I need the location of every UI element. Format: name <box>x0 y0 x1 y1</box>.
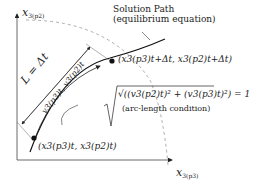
angle-arc <box>61 105 78 125</box>
x-axis-label: x3(p3) <box>176 166 198 179</box>
length-tick-b <box>86 44 112 62</box>
y-axis-label: x3(p2) <box>22 6 44 19</box>
length-tick-a <box>17 122 33 140</box>
length-arrow-rev <box>22 47 90 124</box>
end-point-label: (x3(p3)t+Δt, x3(p2)t+Δt) <box>118 54 232 64</box>
start-point-label: (x3(p3)t, x3(p2)t) <box>38 141 117 151</box>
arc-length-caption: (arc-length condition) <box>122 104 210 113</box>
solution-path-pointer <box>142 32 150 40</box>
arc-length-equation: √((v3(p2)t)² + (v3(p3)t)²) = 1 <box>118 89 250 99</box>
end-point <box>109 58 114 63</box>
start-point <box>31 135 36 140</box>
diagram-canvas: x3(p2) x3(p3) Solution Path (equilibrium… <box>0 0 259 190</box>
solution-path-label: Solution Path (equilibrium equation) <box>113 4 216 24</box>
